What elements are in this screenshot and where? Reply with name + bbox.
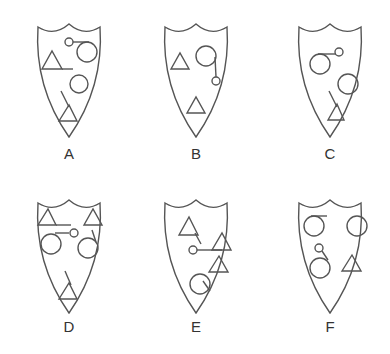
shield-f[interactable] [299,200,367,313]
label-b: B [181,145,211,162]
shield-d[interactable] [38,200,102,313]
shield-c[interactable] [299,24,362,137]
shield-a[interactable] [38,24,101,137]
label-a: A [54,145,84,162]
label-c: C [315,145,345,162]
label-d: D [54,318,84,335]
shield-e[interactable] [165,200,231,313]
shields-figure [0,0,390,354]
label-e: E [181,318,211,335]
shield-b[interactable] [165,24,228,137]
label-f: F [315,318,345,335]
